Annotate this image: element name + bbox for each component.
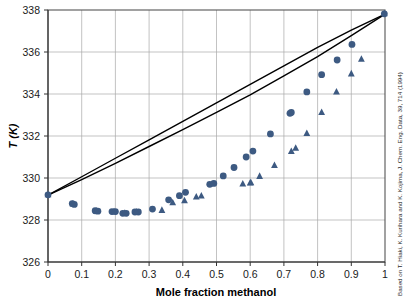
x-tick-label: 0.6 [243, 268, 258, 280]
y-tick-label: 334 [22, 88, 40, 100]
x-tick-label: 0.7 [277, 268, 292, 280]
y-axis-title: T (K) [7, 123, 19, 148]
vle-phase-diagram: 326328330332334336338 00.10.20.30.40.50.… [0, 0, 412, 301]
x-tick-label: 0.1 [74, 268, 89, 280]
x-tick-label: 0.4 [175, 268, 190, 280]
y-tick-label: 338 [22, 4, 40, 16]
x-axis-title: Mole fraction methanol [156, 286, 276, 298]
x-tick-label: 0.9 [344, 268, 359, 280]
x-tick-label: 0 [45, 268, 51, 280]
data-point-circle [349, 41, 356, 48]
data-point-circle [318, 71, 325, 78]
y-tick-label: 336 [22, 46, 40, 58]
chart-figure: 326328330332334336338 00.10.20.30.40.50.… [0, 0, 412, 301]
data-point-circle [182, 189, 189, 196]
x-tick-label: 1 [382, 268, 388, 280]
data-point-circle [267, 131, 274, 138]
data-point-circle [176, 192, 183, 199]
source-credit: Based on T. Hiaki, K. Kurihara and K. Ko… [396, 72, 403, 296]
x-axis-title-group: Mole fraction methanol [156, 286, 276, 298]
data-point-circle [288, 109, 295, 116]
data-point-circle [334, 57, 341, 64]
data-point-circle [210, 180, 217, 187]
y-tick-label: 328 [22, 214, 40, 226]
x-tick-label: 0.3 [142, 268, 157, 280]
y-tick-label: 330 [22, 172, 40, 184]
data-point-circle [250, 148, 257, 155]
source-credit-group: Based on T. Hiaki, K. Kurihara and K. Ko… [396, 72, 403, 296]
data-point-circle [303, 89, 310, 96]
x-tick-label: 0.5 [209, 268, 224, 280]
data-point-circle [149, 206, 156, 213]
y-axis-title-group: T (K) [7, 123, 19, 148]
x-tick-label: 0.8 [310, 268, 325, 280]
y-tick-label: 326 [22, 256, 40, 268]
x-tick-label: 0.2 [108, 268, 123, 280]
data-point-circle [243, 154, 250, 161]
data-point-circle [220, 173, 227, 180]
y-tick-label: 332 [22, 130, 40, 142]
data-point-circle [231, 164, 238, 171]
